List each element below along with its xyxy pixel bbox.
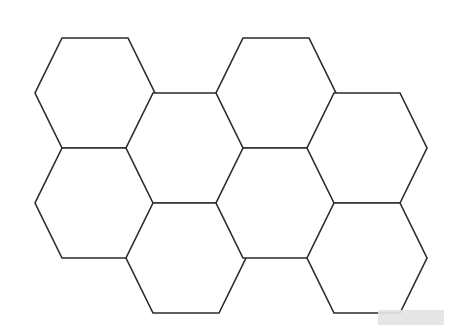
figure-canvas (0, 0, 450, 328)
watermark-badge (378, 310, 444, 325)
hexagon-grid (0, 0, 450, 328)
hexagon-group (35, 38, 427, 313)
